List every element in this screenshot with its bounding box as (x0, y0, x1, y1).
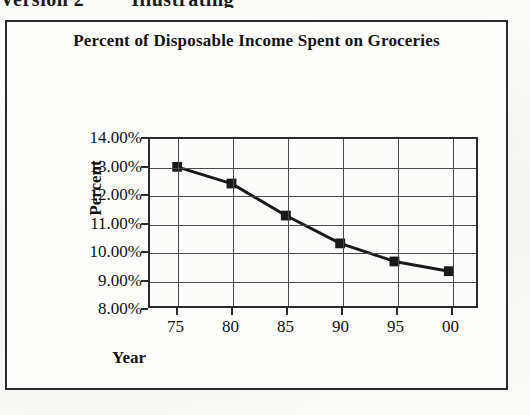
plot-area (148, 137, 478, 308)
series-line (177, 167, 449, 271)
gridline-vertical (398, 139, 399, 306)
gridline-horizontal (150, 196, 476, 197)
x-tick-label: 90 (332, 318, 349, 335)
data-point-marker (227, 179, 237, 189)
y-tick-label: 8.00% (58, 300, 142, 317)
x-axis-tick-labels: 758085909500 (0, 318, 530, 342)
x-tick-mark (176, 308, 178, 315)
x-tick-mark (231, 308, 233, 315)
gridline-vertical (453, 139, 454, 306)
y-tick-label: 10.00% (58, 243, 142, 260)
gridline-horizontal (150, 253, 476, 254)
y-tick-mark (141, 223, 148, 225)
heading-fragment-right: Illustrating (131, 0, 234, 8)
y-tick-label: 12.00% (58, 186, 142, 203)
x-tick-label: 85 (277, 318, 294, 335)
y-tick-mark (141, 166, 148, 168)
x-tick-mark (341, 308, 343, 315)
y-tick-label: 9.00% (58, 272, 142, 289)
gridline-vertical (288, 139, 289, 306)
gridline-horizontal (150, 225, 476, 226)
gridline-vertical (233, 139, 234, 306)
y-tick-mark (141, 251, 148, 253)
data-point-marker (281, 211, 291, 221)
y-tick-label: 14.00% (58, 129, 142, 146)
y-tick-label: 13.00% (58, 158, 142, 175)
y-tick-mark (141, 194, 148, 196)
gridline-vertical (343, 139, 344, 306)
x-tick-label: 80 (222, 318, 239, 335)
y-tick-mark (141, 137, 148, 139)
y-tick-label: 11.00% (58, 215, 142, 232)
y-tick-mark (141, 308, 148, 310)
x-tick-label: 00 (442, 318, 459, 335)
y-tick-mark (141, 280, 148, 282)
gridline-vertical (178, 139, 179, 306)
x-tick-label: 75 (167, 318, 184, 335)
x-tick-mark (396, 308, 398, 315)
x-tick-mark (286, 308, 288, 315)
data-point-marker (335, 238, 345, 248)
gridline-horizontal (150, 282, 476, 283)
x-tick-label: 95 (387, 318, 404, 335)
gridline-horizontal (150, 168, 476, 169)
x-tick-mark (451, 308, 453, 315)
y-axis-tick-labels: 14.00%13.00%12.00%11.00%10.00%9.00%8.00% (58, 0, 142, 415)
